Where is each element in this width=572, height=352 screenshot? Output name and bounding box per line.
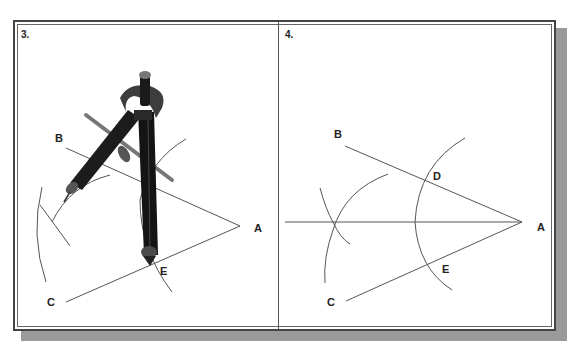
label-d-4: D: [433, 170, 441, 182]
label-b-4: B: [334, 128, 342, 140]
arc-left-large: [37, 187, 46, 282]
label-b-3: B: [55, 132, 63, 144]
label-a-4: A: [537, 221, 545, 233]
label-c-4: C: [327, 296, 335, 308]
construction-diagram: B A C E B D A E C: [0, 0, 572, 352]
arc-left-small: [40, 205, 70, 246]
ray-ac-4: [346, 222, 522, 301]
label-c-3: C: [47, 296, 55, 308]
arc-from-e: [325, 174, 388, 283]
label-e-4: E: [442, 263, 449, 275]
panel-3-geometry: [37, 139, 240, 302]
ray-ab-4: [345, 146, 522, 222]
label-a-3: A: [254, 222, 262, 234]
panel-4-geometry: [285, 138, 522, 301]
arc-from-d: [320, 188, 350, 244]
label-e-3: E: [160, 265, 167, 277]
compass-icon: [63, 71, 172, 266]
